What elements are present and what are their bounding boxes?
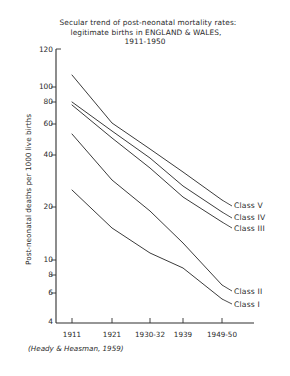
series-leader-class-iii [222, 222, 232, 228]
chart-figure: Secular trend of post-neonatal mortality… [0, 0, 290, 376]
plot-area [0, 0, 290, 376]
series-line-class-ii [72, 134, 222, 285]
series-line-class-iii [72, 105, 222, 222]
series-label-class-iv: Class IV [234, 213, 265, 222]
series-label-class-v: Class V [234, 201, 263, 210]
source-citation: (Heady & Heasman, 1959) [28, 344, 124, 353]
series-leader-class-v [222, 200, 232, 206]
series-label-class-i: Class I [234, 300, 260, 309]
series-line-class-v [72, 75, 222, 200]
series-label-class-ii: Class II [234, 287, 262, 296]
series-leader-class-i [222, 299, 232, 304]
series-line-class-i [72, 190, 222, 299]
series-leader-class-iv [222, 212, 232, 218]
series-leader-class-ii [222, 285, 232, 291]
series-line-class-iv [72, 102, 222, 212]
series-label-class-iii: Class III [234, 224, 265, 233]
